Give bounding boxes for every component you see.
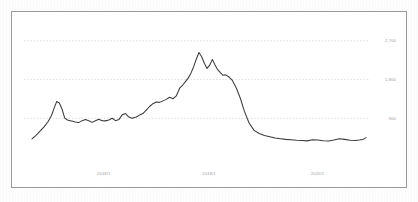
y-axis-tick-labels: 2,700 1,800 900 (385, 38, 397, 120)
y-tick-label-900: 900 (389, 116, 397, 121)
price-series-line (32, 53, 366, 142)
chart-frame: 2,700 1,800 900 2018/1 2019/1 2020/1 (11, 11, 407, 188)
y-tick-label-1800: 1,800 (385, 77, 397, 82)
x-tick-label-2019: 2019/1 (202, 171, 216, 176)
x-axis-tick-labels: 2018/1 2019/1 2020/1 (97, 171, 325, 176)
chart-page: 2,700 1,800 900 2018/1 2019/1 2020/1 (0, 0, 418, 202)
gridlines (24, 41, 370, 118)
y-tick-label-2700: 2,700 (385, 38, 397, 43)
line-chart-plot: 2,700 1,800 900 2018/1 2019/1 2020/1 (12, 12, 408, 189)
x-tick-label-2018: 2018/1 (97, 171, 111, 176)
x-tick-label-2020: 2020/1 (311, 171, 325, 176)
